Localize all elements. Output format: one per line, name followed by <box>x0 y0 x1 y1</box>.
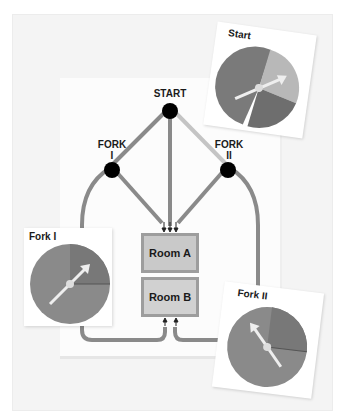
fork1-label-line2: I <box>92 150 132 161</box>
room-b: Room B <box>141 277 199 317</box>
room-a-label: Room A <box>149 247 191 259</box>
fork2-label-line2: II <box>209 150 249 161</box>
fork2-node <box>220 162 236 178</box>
path-fork1-room-a <box>113 168 162 223</box>
rooms: Room A Room B <box>141 231 199 320</box>
path-fork2-room-a <box>178 168 226 223</box>
fork1-spinner-card: Fork I <box>24 228 112 326</box>
start-spinner-card: Start <box>203 22 317 139</box>
fork2-label-line1: FORK <box>209 139 249 150</box>
fork2-label: FORK II <box>209 139 249 161</box>
fork2-spinner-card: Fork II <box>212 281 324 398</box>
start-spinner <box>203 22 317 139</box>
fork1-label: FORK I <box>92 139 132 161</box>
start-label: START <box>150 88 190 99</box>
fork1-node <box>104 162 120 178</box>
start-node <box>162 103 178 119</box>
room-a: Room A <box>141 233 199 273</box>
fork1-label-line1: FORK <box>92 139 132 150</box>
fork2-spinner <box>212 281 324 398</box>
room-b-label: Room B <box>149 291 191 303</box>
fork1-spinner <box>24 228 112 326</box>
